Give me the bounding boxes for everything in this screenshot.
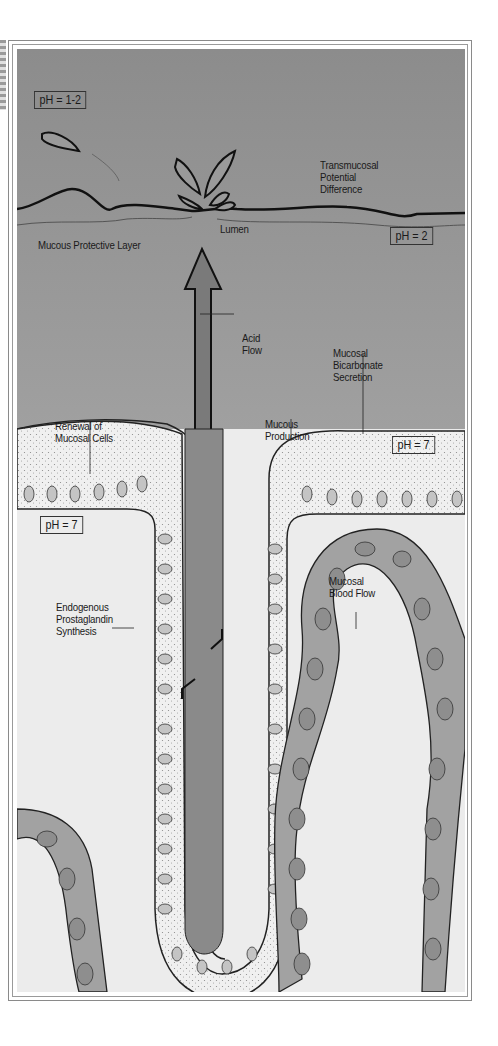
label-acid-flow: Acid Flow	[242, 332, 262, 356]
ph-box-lumen-top: pH = 1-2	[34, 91, 87, 109]
label-endogenous-prostaglandin-synthesis: Endogenous Prostaglandin Synthesis	[56, 601, 113, 637]
label-renewal-of-mucosal-cells: Renewal of Mucosal Cells	[55, 420, 113, 444]
edge-stripe	[0, 40, 6, 110]
ph-box-lumen-right: pH = 2	[390, 227, 433, 245]
ph-box-tissue: pH = 7	[40, 516, 83, 534]
label-lumen: Lumen	[220, 223, 249, 235]
mucosal-defense-illustration: pH = 1-2 Transmucosal Potential Differen…	[17, 49, 465, 992]
label-mucous-protective-layer: Mucous Protective Layer	[38, 239, 140, 251]
label-mucosal-blood-flow: Mucosal Blood Flow	[329, 575, 375, 599]
label-mucous-production: Mucous Production	[265, 418, 310, 442]
label-mucosal-bicarbonate-secretion: Mucosal Bicarbonate Secretion	[333, 347, 383, 383]
illustration-svg	[17, 49, 465, 992]
ph-box-mucus: pH = 7	[392, 436, 435, 454]
label-transmucosal-potential-difference: Transmucosal Potential Difference	[320, 159, 378, 195]
